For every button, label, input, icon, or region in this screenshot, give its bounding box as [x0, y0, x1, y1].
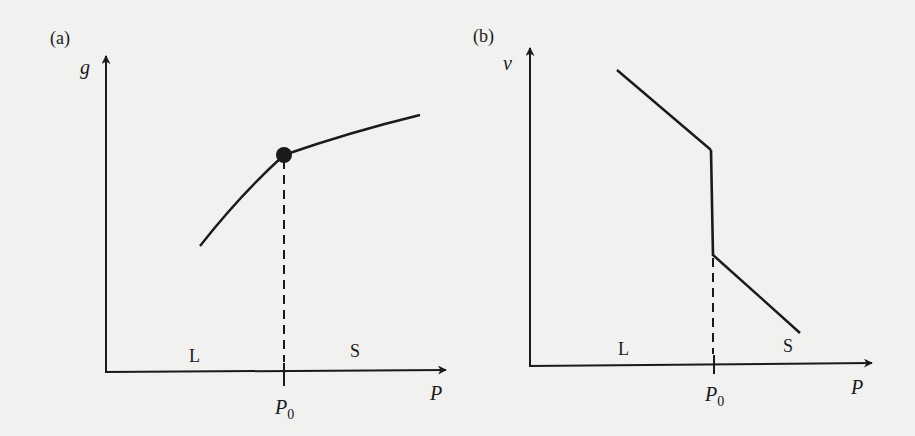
panel-a-kink-point	[276, 147, 292, 163]
panel-a-liquid-curve	[200, 155, 284, 246]
figure: (a) g P P0 L S (b) v P P0 L	[0, 0, 915, 436]
panel-a: (a) g P P0 L S	[50, 28, 446, 422]
panel-a-p0-label: P0	[274, 396, 294, 422]
panel-b-y-axis-label: v	[503, 52, 512, 74]
panel-b-solid-line	[713, 255, 800, 333]
panel-a-region-solid: S	[350, 341, 360, 361]
panel-b-label: (b)	[473, 26, 494, 47]
panel-b: (b) v P P0 L S	[473, 26, 872, 409]
panel-b-p0-label: P0	[704, 383, 724, 409]
panel-a-solid-curve	[284, 115, 420, 155]
panel-b-x-axis-label: P	[850, 376, 863, 398]
panel-a-region-liquid: L	[189, 346, 200, 366]
panel-b-x-axis	[529, 363, 872, 366]
panel-a-y-axis-label: g	[80, 56, 90, 79]
panel-b-volume-jump	[711, 150, 713, 256]
panel-b-region-solid: S	[783, 336, 793, 356]
panel-b-liquid-line	[617, 70, 711, 150]
panel-a-x-axis-label: P	[429, 382, 442, 404]
panel-a-x-axis	[105, 370, 446, 372]
panel-b-region-liquid: L	[618, 339, 629, 359]
panel-a-label: (a)	[50, 28, 70, 49]
